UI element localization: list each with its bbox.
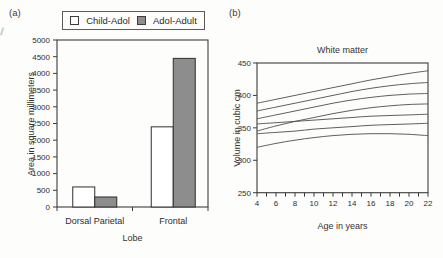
growth-curve-7 <box>257 134 428 148</box>
y-tick-label: 2500 <box>32 119 50 128</box>
y-tick-label: 4000 <box>32 69 50 78</box>
bar-dorsal-parietal <box>95 197 117 207</box>
category-label: Frontal <box>159 216 187 226</box>
x-tick-label: 16 <box>367 199 376 208</box>
y-tick-label: 3500 <box>32 86 50 95</box>
x-tick-label: 14 <box>348 199 357 208</box>
y-tick-label: 350 <box>238 124 252 133</box>
figure-brain-development: (a) (b) Child-Adol Adol-Adult Area in sq… <box>0 0 443 258</box>
x-tick-label: 10 <box>310 199 319 208</box>
growth-curve-5 <box>257 114 428 124</box>
bar-frontal <box>151 127 173 207</box>
y-tick-label: 4500 <box>32 53 50 62</box>
x-tick-label: 4 <box>255 199 260 208</box>
category-label: Dorsal Parietal <box>65 216 124 226</box>
y-tick-label: 400 <box>238 91 252 100</box>
line-chart-frame <box>257 63 428 193</box>
x-tick-label: 18 <box>386 199 395 208</box>
y-tick-label: 500 <box>37 186 51 195</box>
growth-curve-1 <box>257 71 428 103</box>
y-tick-label: 250 <box>238 189 252 198</box>
bar-dorsal-parietal <box>73 187 95 207</box>
y-tick-label: 1500 <box>32 153 50 162</box>
growth-curve-6 <box>257 123 428 133</box>
x-tick-label: 12 <box>329 199 338 208</box>
y-tick-label: 0 <box>46 203 51 212</box>
x-tick-label: 22 <box>424 199 433 208</box>
bar-frontal <box>173 58 195 207</box>
charts-canvas: 0500100015002000250030003500400045005000… <box>0 0 443 258</box>
y-tick-label: 2000 <box>32 136 50 145</box>
x-tick-label: 6 <box>274 199 279 208</box>
y-tick-label: 3000 <box>32 103 50 112</box>
y-tick-label: 450 <box>238 59 252 68</box>
y-tick-label: 1000 <box>32 169 50 178</box>
y-tick-label: 5000 <box>32 36 50 45</box>
x-tick-label: 8 <box>293 199 298 208</box>
x-tick-label: 20 <box>405 199 414 208</box>
y-tick-label: 300 <box>238 156 252 165</box>
growth-curve-2 <box>257 83 428 112</box>
